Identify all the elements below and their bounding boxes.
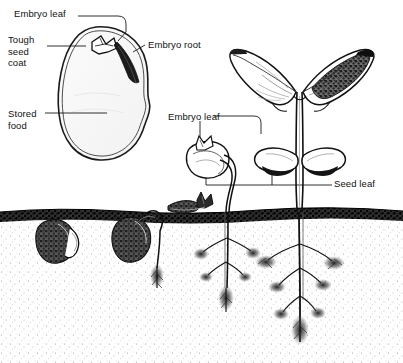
label-embryo-root: Embryo root [148,39,201,51]
label-stored-food: Stored food [8,108,37,131]
root-hairs-stage-2 [150,264,164,288]
label-tough-seed-coat: Tough seed coat [8,34,34,69]
emerging-shoot-stage-3 [168,192,213,213]
label-embryo-leaf-seedling: Embryo leaf [168,111,220,123]
seed-leaves-cotyledons [255,148,346,176]
label-seed-leaf: Seed leaf [334,178,375,190]
germination-diagram: Embryo leaf Tough seed coat Stored food … [0,0,403,363]
true-leaf-right [303,50,374,112]
true-leaf-left [230,49,296,111]
leader-embryo-leaf-seedling-upper [214,116,261,134]
label-embryo-leaf-seed: Embryo leaf [14,8,66,20]
bean-seed-cutaway [58,27,150,160]
